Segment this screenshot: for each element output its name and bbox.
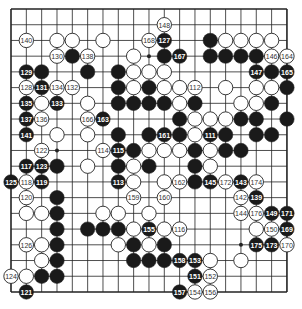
black-stone <box>50 159 64 173</box>
move-number-label: 171 <box>281 210 293 217</box>
white-stone: 138 <box>80 49 94 63</box>
black-stone <box>234 49 248 63</box>
black-stone <box>157 49 171 63</box>
move-number-label: 158 <box>174 257 186 264</box>
black-stone <box>264 65 278 79</box>
black-stone <box>142 128 156 142</box>
white-stone <box>264 33 278 47</box>
move-number-label: 162 <box>174 179 186 186</box>
black-stone <box>142 253 156 267</box>
move-number-label: 140 <box>20 37 32 44</box>
black-stone <box>50 206 64 220</box>
go-board: 1481401681271301381671461641291471651281… <box>0 0 302 309</box>
black-stone <box>111 96 125 110</box>
move-number-label: 148 <box>158 22 170 29</box>
black-stone: 157 <box>172 285 186 299</box>
black-stone <box>142 80 156 94</box>
black-stone <box>50 222 64 236</box>
black-stone <box>80 222 94 236</box>
move-number-label: 130 <box>51 53 63 60</box>
move-number-label: 126 <box>20 242 32 249</box>
black-stone: 169 <box>280 222 294 236</box>
black-stone <box>188 143 202 157</box>
white-stone: 148 <box>157 18 171 32</box>
move-number-label: 125 <box>5 179 17 186</box>
move-number-label: 133 <box>51 100 63 107</box>
star-point <box>239 243 243 247</box>
black-stone <box>157 238 171 252</box>
black-stone <box>50 253 64 267</box>
black-stone <box>96 222 110 236</box>
white-stone <box>126 159 140 173</box>
white-stone <box>172 80 186 94</box>
go-board-canvas: 1481401681271301381671461641291471651281… <box>0 0 302 309</box>
white-stone <box>157 222 171 236</box>
white-stone <box>50 33 64 47</box>
black-stone: 135 <box>19 96 33 110</box>
black-stone <box>157 253 171 267</box>
black-stone: 155 <box>142 222 156 236</box>
move-number-label: 154 <box>189 289 201 296</box>
move-number-label: 114 <box>97 147 108 154</box>
white-stone: 154 <box>188 285 202 299</box>
black-stone <box>218 143 232 157</box>
move-number-label: 174 <box>250 179 262 186</box>
black-stone: 151 <box>188 269 202 283</box>
move-number-label: 116 <box>174 226 185 233</box>
black-stone: 139 <box>249 190 263 204</box>
star-point <box>147 54 151 58</box>
black-stone: 143 <box>234 175 248 189</box>
move-number-label: 176 <box>250 210 262 217</box>
white-stone: 152 <box>203 269 217 283</box>
move-number-label: 142 <box>235 194 247 201</box>
black-stone <box>111 128 125 142</box>
white-stone: 120 <box>19 190 33 204</box>
white-stone <box>50 128 64 142</box>
white-stone <box>188 128 202 142</box>
move-number-label: 150 <box>266 226 278 233</box>
white-stone <box>142 65 156 79</box>
black-stone: 129 <box>19 65 33 79</box>
black-stone <box>249 49 263 63</box>
white-stone <box>111 206 125 220</box>
move-number-label: 173 <box>266 242 278 249</box>
black-stone: 175 <box>249 238 263 252</box>
black-stone: 119 <box>34 175 48 189</box>
black-stone <box>218 128 232 142</box>
black-stone: 165 <box>280 65 294 79</box>
black-stone <box>50 269 64 283</box>
white-stone <box>234 253 248 267</box>
black-stone: 111 <box>203 128 217 142</box>
black-stone: 141 <box>19 128 33 142</box>
black-stone: 127 <box>157 33 171 47</box>
white-stone <box>234 33 248 47</box>
white-stone: 116 <box>172 222 186 236</box>
white-stone <box>34 96 48 110</box>
black-stone: 149 <box>264 206 278 220</box>
white-stone <box>234 96 248 110</box>
white-stone <box>96 33 110 47</box>
white-stone: 134 <box>50 80 64 94</box>
black-stone <box>188 96 202 110</box>
white-stone: 156 <box>203 285 217 299</box>
black-stone <box>234 112 248 126</box>
move-number-label: 139 <box>250 194 262 201</box>
black-stone: 123 <box>34 159 48 173</box>
black-stone <box>188 159 202 173</box>
white-stone: 176 <box>249 206 263 220</box>
black-stone: 153 <box>188 253 202 267</box>
black-stone: 137 <box>19 112 33 126</box>
white-stone: 162 <box>172 175 186 189</box>
black-stone: 131 <box>34 80 48 94</box>
white-stone <box>80 128 94 142</box>
white-stone <box>80 96 94 110</box>
black-stone <box>234 143 248 157</box>
black-stone: 145 <box>203 175 217 189</box>
black-stone <box>34 65 48 79</box>
white-stone <box>126 49 140 63</box>
black-stone <box>126 253 140 267</box>
white-stone <box>172 96 186 110</box>
move-number-label: 113 <box>113 179 124 186</box>
white-stone <box>34 253 48 267</box>
move-number-label: 155 <box>143 226 155 233</box>
